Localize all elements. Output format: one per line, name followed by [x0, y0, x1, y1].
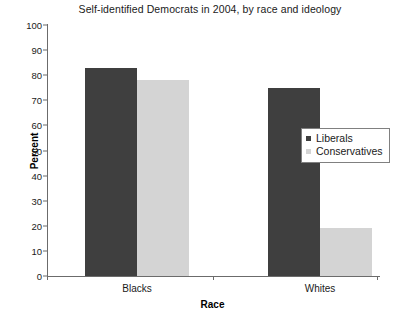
y-tick-label: 10 — [31, 245, 42, 256]
x-axis-line — [47, 276, 380, 277]
y-tickmark — [43, 225, 47, 226]
y-tickmark — [43, 250, 47, 251]
bar-blacks-liberals — [85, 68, 137, 276]
legend-swatch-icon — [306, 136, 311, 141]
y-tick-label: 70 — [31, 95, 42, 106]
legend-swatch-icon — [306, 149, 311, 154]
y-tick-label: 100 — [26, 20, 42, 31]
y-tickmark — [43, 150, 47, 151]
bar-whites-conservatives — [320, 228, 372, 276]
y-tickmark — [43, 75, 47, 76]
bar-blacks-conservatives — [137, 80, 189, 276]
x-axis-title: Race — [47, 299, 378, 310]
y-tickmark — [43, 50, 47, 51]
legend-label: Conservatives — [316, 145, 383, 158]
chart-title: Self-identified Democrats in 2004, by ra… — [0, 3, 420, 15]
y-tickmark — [43, 200, 47, 201]
y-tickmark — [43, 100, 47, 101]
legend-item-liberals: Liberals — [306, 132, 383, 145]
legend-label: Liberals — [316, 132, 353, 145]
x-axis-label-blacks: Blacks — [122, 283, 151, 294]
x-tickmark — [213, 276, 214, 280]
y-tick-label: 30 — [31, 195, 42, 206]
bar-whites-liberals — [268, 88, 320, 276]
y-tick-label: 50 — [31, 145, 42, 156]
y-tickmark — [43, 175, 47, 176]
bar-chart: Self-identified Democrats in 2004, by ra… — [0, 0, 420, 318]
x-tickmark — [377, 276, 378, 280]
y-tick-label: 80 — [31, 70, 42, 81]
y-tick-label: 0 — [37, 271, 42, 282]
chart-legend: LiberalsConservatives — [301, 128, 390, 163]
legend-item-conservatives: Conservatives — [306, 145, 383, 158]
y-tickmark — [43, 125, 47, 126]
y-tick-label: 20 — [31, 220, 42, 231]
y-tick-label: 90 — [31, 45, 42, 56]
y-tick-label: 40 — [31, 170, 42, 181]
y-tick-label: 60 — [31, 120, 42, 131]
y-tickmark — [43, 25, 47, 26]
x-axis-label-whites: Whites — [305, 283, 336, 294]
x-tickmark — [47, 276, 48, 280]
